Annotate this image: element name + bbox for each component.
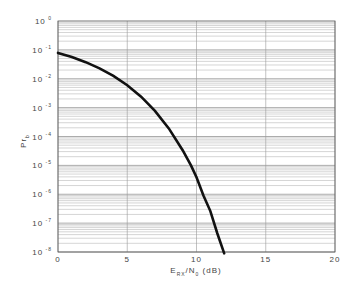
x-axis-ticks: 05101520 bbox=[55, 255, 340, 264]
y-tick-label: 10 -2 bbox=[32, 73, 52, 84]
y-axis-ticks: 10 010 -110 -210 -310 -410 -510 -610 -71… bbox=[32, 15, 52, 257]
x-tick-label: 10 bbox=[191, 255, 202, 264]
y-tick-label: 10 0 bbox=[35, 15, 52, 26]
y-tick-label: 10 -8 bbox=[32, 246, 52, 257]
y-tick-label: 10 -1 bbox=[32, 44, 52, 55]
y-axis-label: Prb bbox=[19, 134, 30, 148]
y-tick-label: 10 -5 bbox=[32, 159, 52, 170]
y-tick-label: 10 -3 bbox=[32, 102, 52, 113]
x-tick-label: 0 bbox=[55, 255, 60, 264]
ber-chart: 10 010 -110 -210 -310 -410 -510 -610 -71… bbox=[0, 0, 358, 286]
y-tick-label: 10 -4 bbox=[32, 131, 52, 142]
x-tick-label: 15 bbox=[260, 255, 271, 264]
x-axis-label: ERX/N0 (dB) bbox=[170, 266, 221, 277]
grid-lines bbox=[58, 21, 335, 252]
y-tick-label: 10 -7 bbox=[32, 217, 52, 228]
x-tick-label: 5 bbox=[125, 255, 130, 264]
y-tick-label: 10 -6 bbox=[32, 188, 52, 199]
x-tick-label: 20 bbox=[330, 255, 341, 264]
